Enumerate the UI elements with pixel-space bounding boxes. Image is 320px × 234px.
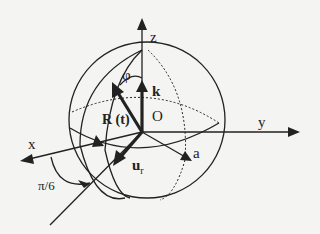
angle-label: π/6 — [38, 179, 55, 192]
a-vector — [142, 132, 187, 158]
origin-label: O — [152, 109, 163, 124]
ur-subscript: r — [140, 165, 143, 176]
sphere-outline — [69, 42, 225, 198]
phi-label: φ — [122, 68, 131, 83]
a-arrow — [180, 151, 192, 161]
x-label: x — [28, 137, 36, 152]
equator-back — [72, 97, 219, 123]
k-label: k — [152, 84, 160, 99]
a-label: a — [193, 146, 200, 161]
z-arrow — [137, 18, 147, 30]
y-arrow — [288, 127, 300, 137]
y-label: y — [258, 115, 266, 130]
x-arrow — [20, 154, 34, 164]
meridian-dotted — [148, 50, 186, 200]
z-label: z — [150, 30, 157, 45]
ur-label: ur — [132, 158, 144, 176]
R-label: R (t) — [102, 113, 130, 127]
